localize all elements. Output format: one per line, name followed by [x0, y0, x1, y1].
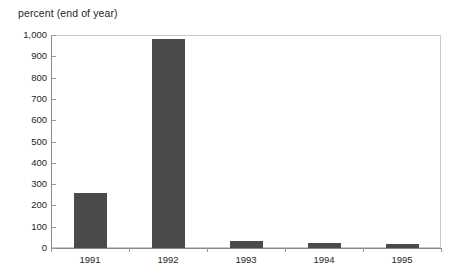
y-axis-tick	[51, 227, 56, 228]
y-axis-tick-label: 0	[1, 243, 47, 253]
x-axis-tick	[285, 248, 286, 252]
plot-area	[51, 35, 441, 248]
y-axis-tick-label-wrap: 400	[0, 158, 47, 168]
y-axis-tick-label: 800	[1, 73, 47, 83]
x-axis-tick-label: 1993	[216, 254, 276, 266]
x-axis-tick	[129, 248, 130, 252]
x-axis-tick	[207, 248, 208, 252]
bar-1994	[308, 243, 341, 248]
chart-title: percent (end of year)	[18, 7, 118, 20]
y-axis-tick-label-wrap: 1,000	[0, 30, 47, 40]
y-axis-tick-label: 300	[1, 179, 47, 189]
x-axis-tick-label: 1995	[372, 254, 432, 266]
bar-1991	[74, 193, 107, 248]
bar-1993	[230, 241, 263, 248]
bar-1992	[152, 39, 185, 248]
y-axis-tick	[51, 99, 56, 100]
y-axis-tick	[51, 205, 56, 206]
x-axis-line	[51, 248, 441, 249]
y-axis-tick	[51, 163, 56, 164]
y-axis-tick-label: 900	[1, 51, 47, 61]
y-axis-tick-label: 700	[1, 94, 47, 104]
y-axis-tick	[51, 35, 56, 36]
y-axis-tick	[51, 120, 56, 121]
y-axis-tick-label-wrap: 100	[0, 222, 47, 232]
x-axis-tick	[441, 248, 442, 252]
y-axis-tick-label-wrap: 600	[0, 115, 47, 125]
x-axis-tick	[363, 248, 364, 252]
y-axis-tick-label-wrap: 0	[0, 243, 47, 253]
y-axis-tick	[51, 184, 56, 185]
bar-chart: percent (end of year) 010020030040050060…	[0, 0, 460, 269]
y-axis-tick-label-wrap: 900	[0, 51, 47, 61]
x-axis-tick-label: 1994	[294, 254, 354, 266]
y-axis-tick-label-wrap: 300	[0, 179, 47, 189]
y-axis-tick	[51, 78, 56, 79]
y-axis-tick	[51, 56, 56, 57]
y-axis-tick-label: 100	[1, 222, 47, 232]
y-axis-tick-label: 1,000	[1, 30, 47, 40]
y-axis-tick-label: 400	[1, 158, 47, 168]
y-axis-tick-label-wrap: 500	[0, 137, 47, 147]
bar-1995	[386, 244, 419, 248]
y-axis-tick-label-wrap: 200	[0, 200, 47, 210]
y-axis-tick-label: 600	[1, 115, 47, 125]
y-axis-tick	[51, 142, 56, 143]
y-axis-tick-label-wrap: 800	[0, 73, 47, 83]
x-axis-tick-label: 1992	[138, 254, 198, 266]
x-axis-tick-label: 1991	[60, 254, 120, 266]
y-axis-tick-label: 200	[1, 200, 47, 210]
x-axis-tick	[51, 248, 52, 252]
y-axis-tick-label-wrap: 700	[0, 94, 47, 104]
y-axis-tick-label: 500	[1, 137, 47, 147]
